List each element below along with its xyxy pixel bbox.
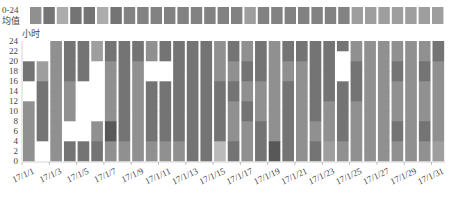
daily-average-cell [204, 7, 215, 24]
heatmap-cell [378, 111, 390, 121]
heatmap-cell [323, 91, 335, 101]
heatmap-cell [228, 71, 240, 81]
heatmap-cell [269, 131, 281, 141]
day-column [419, 41, 431, 161]
x-tick-label: 17/1/3 [38, 166, 64, 185]
x-tick-label: 17/1/5 [65, 166, 91, 185]
heatmap-cell [105, 151, 117, 161]
day-column [323, 41, 335, 161]
heatmap-cell [255, 131, 267, 141]
heatmap-cell [105, 111, 117, 121]
heatmap-cell [37, 111, 49, 121]
heatmap-cell [269, 71, 281, 81]
heatmap-cell [91, 51, 103, 61]
heatmap-cell [255, 71, 267, 81]
day-column [23, 41, 35, 161]
heatmap-cell [200, 91, 212, 101]
heatmap-cell [214, 141, 226, 151]
heatmap-cell [50, 41, 62, 51]
daily-average-cell [84, 7, 95, 24]
daily-average-cell [432, 7, 443, 24]
heatmap-cell [255, 141, 267, 151]
day-column [296, 41, 308, 161]
heatmap-cell [50, 91, 62, 101]
heatmap-cell [64, 81, 76, 91]
heatmap-cell [241, 131, 253, 141]
x-tick-label: 17/1/31 [416, 166, 445, 187]
heatmap-cell [255, 91, 267, 101]
heatmap-cell [433, 41, 445, 51]
heatmap-cell [91, 101, 103, 111]
daily-average-cell [298, 7, 309, 24]
heatmap-cell [132, 131, 144, 141]
heatmap-cell [160, 131, 172, 141]
day-column [433, 41, 445, 161]
daily-average-cell [338, 7, 349, 24]
heatmap-cell [323, 101, 335, 111]
daily-average-cell [419, 7, 430, 24]
heatmap-cell [228, 81, 240, 91]
heatmap-cell [119, 121, 131, 131]
heatmap-cell [214, 61, 226, 71]
heatmap-cell [187, 151, 199, 161]
daily-average-cell [231, 7, 242, 24]
heatmap-cell [392, 51, 404, 61]
heatmap-cell [78, 101, 90, 111]
heatmap-cell [337, 151, 349, 161]
y-tick-label: 6 [14, 126, 19, 136]
daily-average-cell [218, 7, 229, 24]
heatmap-cell [119, 131, 131, 141]
heatmap-cell [433, 151, 445, 161]
heatmap-cell [132, 81, 144, 91]
x-tick-label: 17/1/21 [280, 166, 309, 187]
heatmap-cell [214, 131, 226, 141]
day-column [146, 41, 158, 161]
heatmap-cell [187, 51, 199, 61]
y-tick-label: 0 [14, 156, 19, 166]
daily-average-cell [70, 7, 81, 24]
heatmap-cell [64, 121, 76, 131]
x-tick-label: 17/1/15 [198, 166, 228, 187]
heatmap-cell [282, 121, 294, 131]
heatmap-cell [337, 111, 349, 121]
heatmap-cell [323, 121, 335, 131]
heatmap-cell [241, 61, 253, 71]
heatmap-cell [392, 91, 404, 101]
heatmap-cell [50, 81, 62, 91]
heatmap-cell [296, 111, 308, 121]
heatmap-cell [405, 141, 417, 151]
heatmap-cell [296, 121, 308, 131]
daily-average-cell [365, 7, 376, 24]
heatmap-cell [433, 141, 445, 151]
y-axis: 024681012141618202224 [9, 36, 22, 166]
heatmap-cell [160, 101, 172, 111]
heatmap-cell [378, 131, 390, 141]
heatmap-cell [78, 141, 90, 151]
heatmap-cell [23, 91, 35, 101]
heatmap-cell [64, 111, 76, 121]
heatmap-cell [37, 41, 49, 51]
heatmap-cell [405, 111, 417, 121]
heatmap-cell [351, 151, 363, 161]
y-axis-title: 小时 [22, 28, 40, 39]
heatmap-cell [405, 61, 417, 71]
heatmap-cell [433, 61, 445, 71]
heatmap-cell [146, 141, 158, 151]
day-column [50, 41, 62, 161]
heatmap-cell [91, 131, 103, 141]
heatmap-cell [23, 71, 35, 81]
heatmap-cell [392, 61, 404, 71]
heatmap-cell [337, 141, 349, 151]
heatmap-cell [146, 71, 158, 81]
day-column [78, 41, 90, 161]
heatmap-cell [337, 101, 349, 111]
day-column [119, 41, 131, 161]
heatmap-cell [214, 101, 226, 111]
heatmap-cell [323, 131, 335, 141]
heatmap-cell [228, 61, 240, 71]
heatmap-cell [255, 111, 267, 121]
heatmap-cell [269, 41, 281, 51]
heatmap-cell [37, 141, 49, 151]
heatmap-cell [419, 141, 431, 151]
heatmap-cell [241, 151, 253, 161]
